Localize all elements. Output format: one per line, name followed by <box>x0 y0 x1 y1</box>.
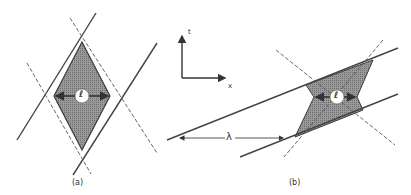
panel-b <box>167 40 398 157</box>
diagram-canvas <box>0 0 411 195</box>
panel-b-center-label: ℓ <box>334 90 338 100</box>
panel-a-caption: (a) <box>72 178 83 187</box>
lambda-label: λ <box>226 131 232 142</box>
axes-indicator <box>182 36 225 78</box>
panel-b-solid-upper-line <box>167 48 398 140</box>
panel-a-center-label: ℓ <box>79 89 83 99</box>
x-axis-label: x <box>228 82 232 90</box>
panel-a <box>17 13 157 175</box>
t-axis-label: t <box>188 28 191 36</box>
panel-b-caption: (b) <box>289 178 300 187</box>
